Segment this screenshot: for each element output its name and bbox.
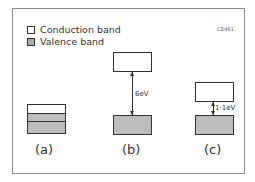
figure-code: CD461 [217, 26, 234, 32]
legend-valence: Valence band [27, 36, 121, 48]
arrow-down-icon [211, 111, 215, 115]
arrow-up-icon [130, 72, 134, 76]
conduction-swatch [27, 26, 35, 34]
panel-c-conduction-band [195, 82, 234, 102]
panel-b-valence-band [113, 115, 152, 135]
panel-c-label: (c) [204, 142, 221, 157]
legend-label: Conduction band [40, 24, 121, 36]
panel-b-gap-line [132, 72, 133, 115]
legend: Conduction band Valence band [27, 24, 121, 48]
panel-b-gap-label: 6eV [135, 90, 149, 98]
panel-a-label: (a) [35, 142, 53, 157]
panel-c-gap-label: 1·1eV [215, 104, 235, 112]
panel-b-label: (b) [122, 142, 140, 157]
arrow-up-icon [211, 102, 215, 106]
arrow-down-icon [130, 111, 134, 115]
panel-b-conduction-band [113, 52, 152, 72]
panel-a-valence-band [27, 121, 66, 134]
panel-c-valence-band [195, 115, 234, 135]
valence-swatch [27, 38, 35, 46]
legend-conduction: Conduction band [27, 24, 121, 36]
legend-label: Valence band [40, 36, 104, 48]
